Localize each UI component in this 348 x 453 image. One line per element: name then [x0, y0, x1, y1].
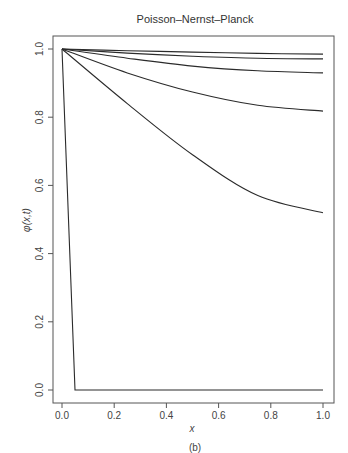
- y-axis: 0.00.20.40.60.81.0: [34, 42, 53, 397]
- data-series: [62, 49, 323, 390]
- series-line-1: [62, 49, 323, 213]
- series-line-0: [62, 49, 323, 390]
- pnp-chart: Poisson–Nernst–Planck 0.00.20.40.60.81.0…: [0, 0, 348, 453]
- plot-frame: [53, 36, 334, 403]
- x-tick-label: 0.6: [212, 410, 226, 421]
- y-tick-label: 0.2: [34, 314, 45, 328]
- chart-title: Poisson–Nernst–Planck: [137, 13, 254, 25]
- y-tick-label: 0.4: [34, 246, 45, 260]
- y-tick-label: 0.0: [34, 383, 45, 397]
- y-axis-label: φ(x,t): [21, 208, 32, 232]
- y-tick-label: 0.6: [34, 178, 45, 192]
- figure-caption: (b): [189, 442, 201, 453]
- x-tick-label: 0.0: [55, 410, 69, 421]
- x-tick-label: 0.8: [264, 410, 278, 421]
- y-tick-label: 1.0: [34, 42, 45, 56]
- x-tick-label: 0.2: [107, 410, 121, 421]
- x-axis: 0.00.20.40.60.81.0: [55, 403, 330, 421]
- x-tick-label: 1.0: [316, 410, 330, 421]
- y-tick-label: 0.8: [34, 110, 45, 124]
- x-tick-label: 0.4: [159, 410, 173, 421]
- x-axis-label: x: [189, 423, 196, 434]
